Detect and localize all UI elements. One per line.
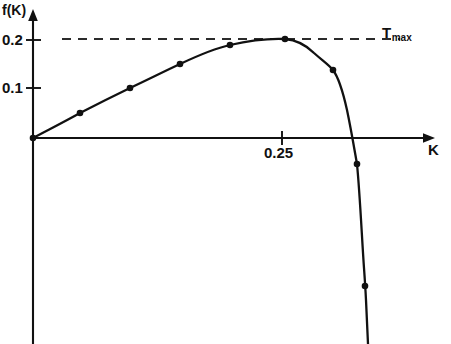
- data-point: [77, 110, 84, 117]
- x-axis-label: K: [428, 142, 439, 157]
- tmax-base-text: T: [382, 24, 391, 41]
- data-point: [127, 85, 134, 92]
- data-point: [362, 283, 369, 290]
- y-tick-label-0.1: 0.1: [2, 80, 23, 95]
- fk-curve: [33, 39, 368, 344]
- data-point: [227, 42, 234, 49]
- data-point: [282, 36, 289, 43]
- data-point: [30, 135, 37, 142]
- chart-figure: f(K) K 0.2 0.1 0.25 Tmax: [0, 0, 451, 344]
- data-point: [354, 161, 361, 168]
- x-tick-label-0.25: 0.25: [264, 145, 293, 160]
- y-axis-arrow-icon: [28, 9, 38, 21]
- tmax-annotation-label: Tmax: [382, 25, 411, 40]
- y-axis-label: f(K): [2, 3, 26, 17]
- chart-plot-area: [0, 0, 451, 344]
- y-tick-label-0.2: 0.2: [2, 32, 23, 47]
- data-point: [330, 67, 337, 74]
- tmax-subscript-text: max: [392, 32, 412, 43]
- data-point: [177, 61, 184, 68]
